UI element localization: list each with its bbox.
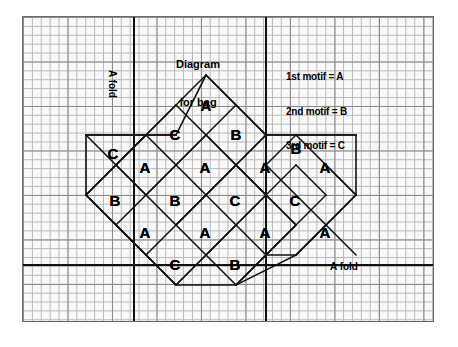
motif-letter-c: C [290, 193, 301, 208]
diagram-title-line2: for bag [176, 96, 220, 109]
diagram-title: Diagram for bag [176, 33, 220, 133]
motif-letter-c: C [170, 127, 181, 142]
motif-letter-a: A [320, 160, 331, 175]
motif-letter-c: C [108, 146, 119, 161]
motif-letter-b: B [291, 141, 302, 156]
fold-label-horizontal: A fold [330, 261, 358, 272]
motif-letter-b: B [110, 193, 121, 208]
motif-letter-a: A [201, 98, 212, 113]
page-root: Diagram for bag 1st motif = A 2nd motif … [0, 0, 458, 347]
motif-letter-b: B [230, 257, 241, 272]
motif-letter-a: A [200, 225, 211, 240]
motif-letter-c: C [170, 257, 181, 272]
diamond-lattice-drawing [0, 0, 458, 347]
fold-label-vertical: A fold [107, 70, 118, 98]
diagram-title-line1: Diagram [176, 58, 220, 71]
motif-letter-a: A [260, 160, 271, 175]
motif-letter-a: A [200, 160, 211, 175]
legend-entry-2: 2nd motif = B [286, 106, 347, 118]
motif-letter-b: B [231, 127, 242, 142]
legend-entry-1: 1st motif = A [286, 71, 347, 83]
motif-letter-b: B [170, 193, 181, 208]
motif-letter-a: A [140, 225, 151, 240]
motif-letter-a: A [260, 225, 271, 240]
motif-letter-a: A [320, 225, 331, 240]
motif-letter-a: A [140, 160, 151, 175]
motif-letter-c: C [230, 193, 241, 208]
